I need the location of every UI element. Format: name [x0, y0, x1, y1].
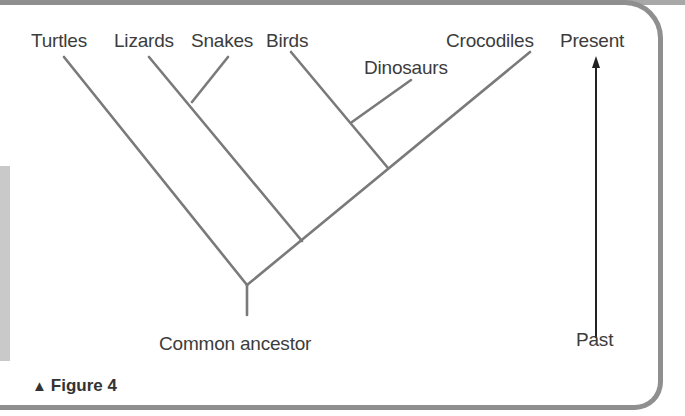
- label-past: Past: [576, 329, 613, 351]
- label-turtles: Turtles: [31, 30, 87, 52]
- branch-dinosaurs: [352, 80, 411, 122]
- branch-turtles: [64, 57, 247, 285]
- label-birds: Birds: [266, 30, 308, 52]
- label-crocodiles: Crocodiles: [446, 30, 534, 52]
- branch-lizards: [149, 57, 302, 241]
- cladogram: [0, 0, 685, 416]
- time-arrow: [592, 56, 600, 338]
- label-common-ancestor: Common ancestor: [159, 333, 311, 355]
- label-dinosaurs: Dinosaurs: [364, 57, 448, 79]
- branch-snakes: [192, 57, 228, 102]
- figure-caption-text: Figure 4: [51, 376, 117, 395]
- branch-crocodiles-main: [247, 52, 530, 285]
- label-present: Present: [560, 30, 624, 52]
- label-lizards: Lizards: [114, 30, 174, 52]
- label-snakes: Snakes: [191, 30, 253, 52]
- arrow-head-icon: [592, 56, 600, 68]
- triangle-up-icon: ▲: [32, 377, 47, 394]
- figure-caption: ▲Figure 4: [32, 376, 117, 396]
